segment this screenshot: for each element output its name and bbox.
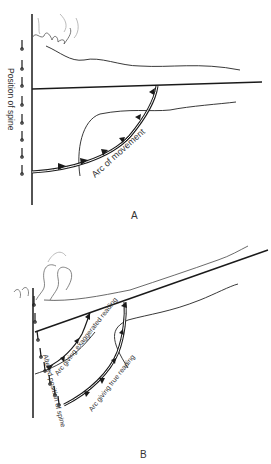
reference-line-b — [35, 250, 268, 332]
panel-label-b: B — [140, 449, 147, 460]
reference-line-a — [32, 82, 262, 89]
spine-markers-a — [21, 40, 23, 175]
arc-of-movement-label-a: Arc of movement — [90, 126, 148, 179]
panel-b: Altered position of spine Arc giving exa… — [14, 246, 268, 460]
diagram-canvas: Position of spine Arc of movement A — [0, 0, 271, 464]
hand-icon-b — [14, 252, 72, 300]
spine-axis-label-a: Position of spine — [6, 68, 16, 131]
panel-label-a: A — [131, 210, 138, 221]
hand-icon-a — [32, 14, 78, 44]
upper-limb-outline-a — [46, 46, 240, 70]
panel-a: Position of spine Arc of movement A — [6, 14, 262, 221]
